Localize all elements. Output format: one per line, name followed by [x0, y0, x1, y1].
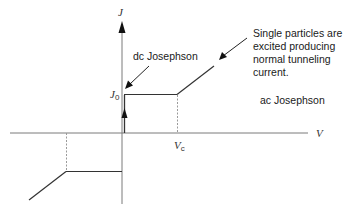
j-axis-arrowhead-icon — [119, 21, 126, 33]
single-particles-note: Single particles are excited producing n… — [253, 27, 342, 78]
dc-pointer-line — [130, 66, 149, 84]
normal-tunneling-line-positive — [177, 66, 214, 95]
v-axis-label: V — [316, 127, 324, 139]
j0-label: J0 — [110, 88, 120, 102]
single-particles-line-3: normal tunneling — [253, 53, 331, 65]
vc-label: Vc — [174, 139, 185, 153]
j-axis-label: J — [118, 6, 124, 18]
single-particles-pointer-line — [223, 38, 247, 56]
single-particles-line-1: Single particles are — [253, 27, 342, 39]
single-particles-line-4: current. — [253, 66, 289, 78]
single-particles-line-2: excited producing — [253, 40, 335, 52]
ac-josephson-label: ac Josephson — [260, 94, 325, 106]
normal-tunneling-line-negative — [29, 172, 66, 201]
josephson-iv-diagram: J V J0 Vc dc Josephson Single particles … — [0, 0, 345, 215]
single-particles-pointer-arrowhead-icon — [219, 52, 227, 60]
dc-josephson-label: dc Josephson — [133, 50, 198, 62]
